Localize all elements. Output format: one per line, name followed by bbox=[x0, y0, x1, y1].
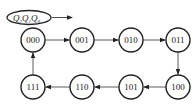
state-label: 010 bbox=[124, 35, 138, 45]
state-diagram: Q2Q1Q0 000 001 010 011 100 101 bbox=[0, 0, 196, 110]
state-101: 101 bbox=[119, 75, 143, 99]
svg-text:Q2Q1Q0: Q2Q1Q0 bbox=[13, 13, 41, 24]
state-001: 001 bbox=[70, 28, 94, 52]
state-010: 010 bbox=[119, 28, 143, 52]
state-111: 111 bbox=[21, 75, 45, 99]
state-label: 111 bbox=[27, 82, 40, 92]
state-label: 001 bbox=[75, 35, 89, 45]
state-label: 110 bbox=[75, 82, 89, 92]
state-100: 100 bbox=[166, 75, 190, 99]
state-110: 110 bbox=[70, 75, 94, 99]
state-label: 011 bbox=[171, 35, 184, 45]
state-label: 000 bbox=[26, 35, 40, 45]
state-label: 101 bbox=[124, 82, 138, 92]
transitions bbox=[33, 40, 178, 87]
state-000: 000 bbox=[21, 28, 45, 52]
state-label: 100 bbox=[171, 82, 185, 92]
state-order-label: Q2Q1Q0 bbox=[7, 11, 72, 25]
state-011: 011 bbox=[166, 28, 190, 52]
